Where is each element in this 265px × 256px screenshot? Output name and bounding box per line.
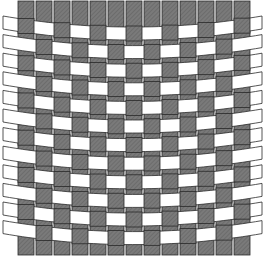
warp-over-segment <box>198 208 214 223</box>
warp-over-segment <box>126 100 142 115</box>
warp-over-segment <box>126 26 142 41</box>
warp-over-segment <box>180 229 196 244</box>
warp-over-segment <box>144 230 160 245</box>
warp-over-segment <box>108 119 124 134</box>
warp-over-segment <box>198 97 214 112</box>
warp-over-segment <box>18 56 34 71</box>
warp-over-segment <box>144 193 160 208</box>
warp-over-segment <box>180 154 196 169</box>
warp-over-segment <box>54 60 70 75</box>
warp-over-segment <box>234 18 250 33</box>
warp-over-segment <box>144 119 160 134</box>
warp-over-segment <box>18 205 34 220</box>
warp-over-segment <box>18 130 34 145</box>
warp-over-segment <box>72 229 88 244</box>
warp-over-segment <box>72 154 88 169</box>
warp-over-segment <box>54 172 70 187</box>
warp-over-segment <box>234 55 250 70</box>
warp-over-segment <box>126 175 142 190</box>
warp-over-segment <box>54 97 70 112</box>
warp-over-segment <box>126 138 142 153</box>
warp-over-segment <box>198 134 214 149</box>
warp-over-segment <box>36 114 52 129</box>
warp-over-segment <box>162 211 178 226</box>
warp-over-segment <box>90 137 106 152</box>
weave-diagram <box>0 0 265 256</box>
warp-over-segment <box>36 225 52 240</box>
warp-over-segment <box>180 43 196 58</box>
warp-over-segment <box>198 171 214 186</box>
warp-over-segment <box>54 209 70 224</box>
warp-over-segment <box>90 100 106 115</box>
warp-over-segment <box>36 151 52 166</box>
warp-over-segment <box>162 25 178 40</box>
warp-over-segment <box>126 212 142 227</box>
warp-over-segment <box>234 93 250 108</box>
warp-over-segment <box>18 93 34 108</box>
warp-over-segment <box>90 174 106 189</box>
warp-over-segment <box>198 60 214 75</box>
warp-over-segment <box>162 137 178 152</box>
warp-over-segment <box>90 62 106 77</box>
warp-over-segment <box>162 174 178 189</box>
warp-over-segment <box>72 80 88 95</box>
warp-over-segment <box>144 156 160 171</box>
warp-over-segment <box>36 77 52 92</box>
warp-over-segment <box>216 114 232 129</box>
warp-over-segment <box>126 63 142 78</box>
warp-over-segment <box>216 76 232 91</box>
warp-over-segment <box>162 62 178 77</box>
warp-over-segment <box>36 188 52 203</box>
warp-over-segment <box>72 192 88 207</box>
warp-over-segment <box>108 156 124 171</box>
warp-over-segment <box>72 117 88 132</box>
warp-over-segment <box>54 134 70 149</box>
warp-over-segment <box>216 151 232 166</box>
warp-over-segment <box>144 82 160 97</box>
warp-over-segment <box>108 44 124 59</box>
warp-over-segment <box>216 39 232 54</box>
warp-over-segment <box>234 204 250 219</box>
warp-over-segment <box>234 130 250 145</box>
warp-over-segment <box>108 82 124 97</box>
warp-over-segment <box>72 43 88 58</box>
warp-over-segment <box>90 211 106 226</box>
warp-over-segment <box>180 191 196 206</box>
warp-over-segment <box>18 19 34 34</box>
warp-over-segment <box>198 22 214 37</box>
warp-over-segment <box>234 167 250 182</box>
warp-over-segment <box>108 230 124 245</box>
warp-over-segment <box>180 117 196 132</box>
warp-over-segment <box>36 39 52 54</box>
warp-over-segment <box>18 167 34 182</box>
warp-over-segment <box>54 23 70 38</box>
warp-over-segment <box>216 188 232 203</box>
warp-over-segment <box>108 193 124 208</box>
warp-over-segment <box>162 99 178 114</box>
warp-over-segment <box>180 80 196 95</box>
warp-over-segment <box>216 225 232 240</box>
warp-over-segment <box>90 25 106 40</box>
warp-over-segment <box>144 44 160 59</box>
